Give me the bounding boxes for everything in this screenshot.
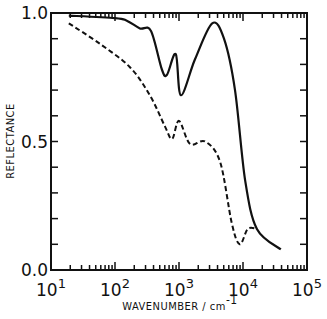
y-axis-title: REFLECTANCE <box>4 103 17 179</box>
x-tick-label: 103 <box>164 276 194 300</box>
x-tick-label: 102 <box>100 276 130 300</box>
reflectance-chart: 101102103104105 0.00.51.0 WAVENUMBER / c… <box>0 0 327 319</box>
data-series <box>69 16 281 250</box>
x-tick-label: 105 <box>292 276 322 300</box>
series-solid-line <box>69 16 281 250</box>
x-axis-ticks <box>51 13 304 270</box>
y-axis-ticks <box>51 13 307 270</box>
y-tick-label: 0.5 <box>21 132 48 152</box>
plot-frame <box>51 13 307 270</box>
y-tick-label: 1.0 <box>21 3 48 23</box>
x-axis-tick-labels: 101102103104105 <box>36 276 322 300</box>
y-axis-tick-labels: 0.00.51.0 <box>21 3 48 280</box>
y-tick-label: 0.0 <box>21 260 48 280</box>
